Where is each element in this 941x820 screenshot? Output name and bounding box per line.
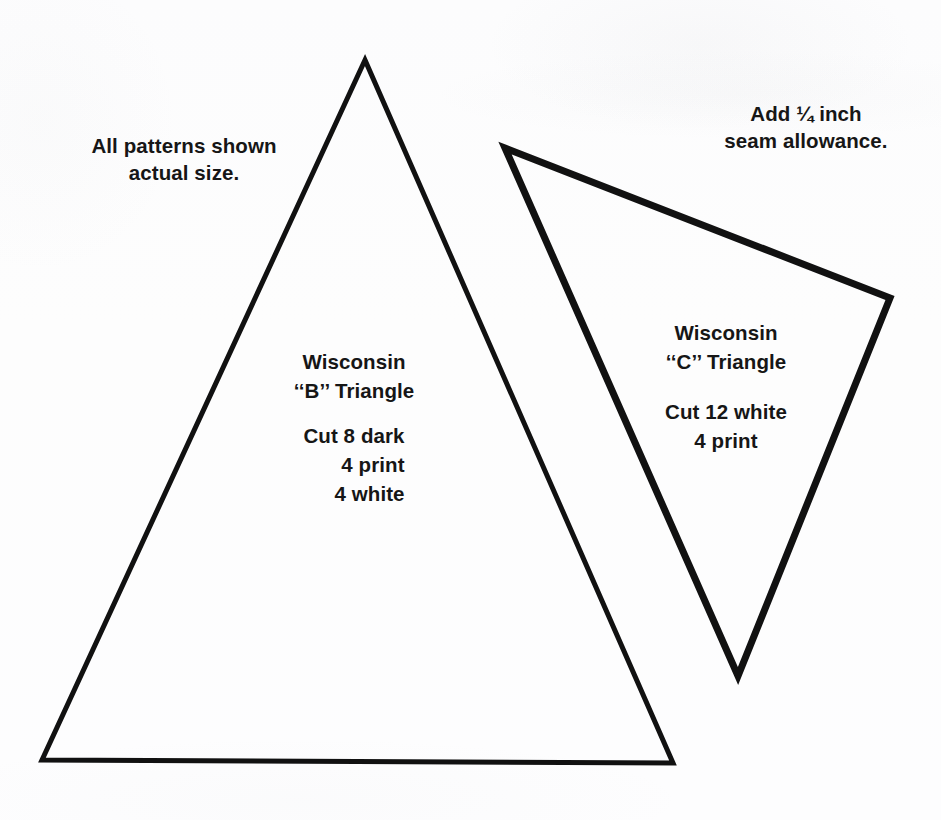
pattern-sheet: All patterns shown actual size. Add ¼ in… <box>0 0 941 820</box>
pattern-b-cut-line-3: 4 white <box>303 480 404 509</box>
pattern-b-cut-line-2: 4 print <box>303 451 404 480</box>
pattern-c-name-line-2: ‘‘C’’ Triangle <box>628 347 824 376</box>
pattern-b-name-line-1: Wisconsin <box>250 347 458 376</box>
pattern-label-wisconsin-c: Wisconsin ‘‘C’’ Triangle Cut 12 white 4 … <box>628 318 824 456</box>
pattern-c-cut-list: Cut 12 white 4 print <box>628 398 824 455</box>
pattern-c-name-line-1: Wisconsin <box>628 318 824 347</box>
pattern-b-cut-list: Cut 8 dark 4 print 4 white <box>250 422 458 508</box>
pattern-c-cut-line-2: 4 print <box>628 427 824 456</box>
pattern-c-cut-line-1: Cut 12 white <box>628 398 824 427</box>
pattern-label-wisconsin-b: Wisconsin ‘‘B’’ Triangle Cut 8 dark 4 pr… <box>250 347 458 508</box>
note-seam-allowance: Add ¼ inch seam allowance. <box>700 100 912 155</box>
note-actual-size: All patterns shown actual size. <box>78 132 290 187</box>
pattern-b-cut-line-1: Cut 8 dark <box>303 422 404 451</box>
pattern-b-name-line-2: ‘‘B’’ Triangle <box>250 376 458 405</box>
